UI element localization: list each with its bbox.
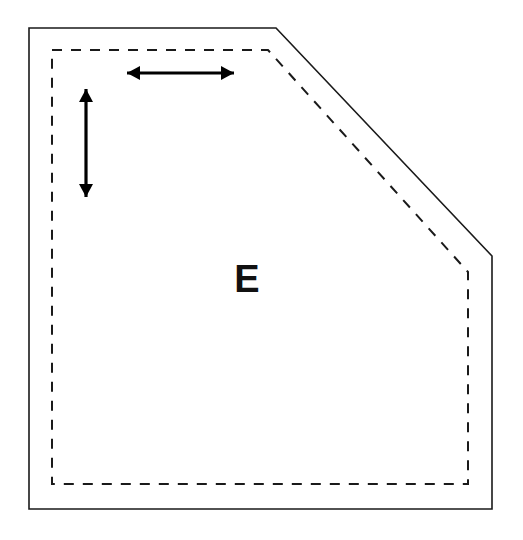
room-plan-diagram: E <box>0 0 523 540</box>
page-background <box>0 0 523 540</box>
region-label-e: E <box>234 258 259 300</box>
diagram-canvas: E <box>0 0 523 540</box>
